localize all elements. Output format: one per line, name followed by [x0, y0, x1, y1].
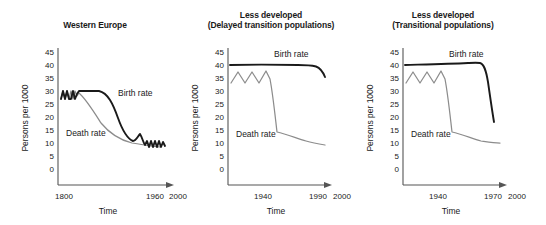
x-tick-1-0: 1940	[254, 192, 272, 201]
x-axis-title-2: Time	[442, 206, 461, 216]
birth-rate-label-1: Birth rate	[274, 49, 309, 59]
y-tick-0-5: 20	[45, 113, 54, 122]
y-tick-1-5: 20	[215, 113, 224, 122]
y-axis-title-0: Persons per 1000	[20, 84, 30, 151]
y-tick-2-9: 0	[395, 165, 400, 174]
chart-panel-transitional: Less developed (Transitional populations…	[353, 0, 546, 225]
y-tick-0-1: 40	[45, 61, 54, 70]
y-axis-title-2: Persons per 1000	[365, 84, 375, 151]
y-tick-0-6: 15	[45, 126, 54, 135]
y-tick-2-8: 5	[395, 152, 400, 161]
plot-area-1: 45 40 35 30 25 20 15 10 5 0 Persons per …	[178, 0, 364, 225]
x-axis-title-1: Time	[267, 206, 286, 216]
y-tick-2-0: 45	[390, 48, 399, 57]
chart-panel-delayed-transition: Less developed (Delayed transition popul…	[178, 0, 364, 225]
y-tick-1-8: 5	[220, 152, 225, 161]
death-rate-label-2: Death rate	[411, 129, 451, 139]
birth-rate-label-0: Birth rate	[118, 88, 153, 98]
y-tick-0-9: 0	[50, 165, 55, 174]
y-tick-1-0: 45	[215, 48, 224, 57]
plot-area-0: 45 40 35 30 25 20 15 10 5 0 Persons per …	[0, 0, 190, 225]
x-tick-2-0: 1940	[429, 192, 447, 201]
y-tick-0-7: 10	[45, 139, 54, 148]
x-tick-0-1: 1960	[146, 192, 164, 201]
y-tick-1-9: 0	[220, 165, 225, 174]
y-tick-1-7: 10	[215, 139, 224, 148]
y-tick-1-4: 25	[215, 100, 224, 109]
y-tick-0-2: 35	[45, 74, 54, 83]
y-tick-2-7: 10	[390, 139, 399, 148]
y-tick-2-5: 20	[390, 113, 399, 122]
x-tick-1-1: 1990	[309, 192, 327, 201]
y-tick-1-2: 35	[215, 74, 224, 83]
y-tick-1-3: 30	[215, 87, 224, 96]
plot-area-2: 45 40 35 30 25 20 15 10 5 0 Persons per …	[353, 0, 546, 225]
x-tick-0-0: 1800	[55, 192, 73, 201]
x-tick-2-1: 1970	[484, 192, 502, 201]
y-tick-0-8: 5	[50, 152, 55, 161]
y-axis-title-1: Persons per 1000	[190, 84, 200, 151]
death-rate-label-0: Death rate	[66, 128, 106, 138]
y-tick-2-3: 30	[390, 87, 399, 96]
y-tick-2-2: 35	[390, 74, 399, 83]
y-tick-0-4: 25	[45, 100, 54, 109]
y-tick-2-4: 25	[390, 100, 399, 109]
x-axis-arrow-0	[166, 182, 174, 188]
x-axis-arrow-1	[324, 182, 332, 188]
x-tick-2-2: 2000	[508, 192, 526, 201]
birth-rate-curve-0	[61, 91, 165, 147]
x-axis-arrow-2	[499, 182, 507, 188]
y-tick-1-6: 15	[215, 126, 224, 135]
y-tick-0-0: 45	[45, 48, 54, 57]
chart-panel-western-europe: Western Europe 45 40 35 30 25 20 15 10 5	[0, 0, 190, 225]
birth-rate-label-2: Birth rate	[449, 49, 484, 59]
demographic-transition-figure: Western Europe 45 40 35 30 25 20 15 10 5	[0, 0, 546, 225]
x-axis-title-0: Time	[99, 206, 118, 216]
y-tick-2-1: 40	[390, 61, 399, 70]
death-rate-label-1: Death rate	[236, 129, 276, 139]
y-tick-2-6: 15	[390, 126, 399, 135]
birth-rate-curve-1	[230, 65, 325, 77]
y-tick-0-3: 30	[45, 87, 54, 96]
x-tick-1-2: 2000	[333, 192, 351, 201]
y-tick-1-1: 40	[215, 61, 224, 70]
